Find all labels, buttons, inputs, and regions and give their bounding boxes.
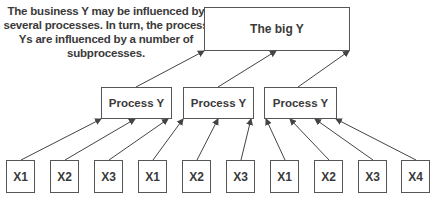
input-box-x2-b: X2 [182,160,211,193]
input-label: X3 [365,170,380,184]
input-box-x3-c: X3 [358,160,387,193]
caption-line-1: The business Y may be influenced by [0,4,212,18]
process-label: Process Y [191,97,246,109]
caption-line-4: subprocesses. [0,46,212,60]
input-box-x2-c: X2 [314,160,343,193]
process-y-box-1: Process Y [101,87,172,119]
process-y-box-2: Process Y [183,87,254,119]
input-box-x2-a: X2 [50,160,79,193]
arrow-x2-to-process2 [197,119,218,160]
process-label: Process Y [273,97,328,109]
arrow-x1-to-process1 [21,119,101,160]
input-label: X3 [233,170,248,184]
arrow-process3-to-bigy [298,51,349,87]
input-box-x1-a: X1 [6,160,35,193]
input-label: X2 [57,170,72,184]
input-box-x3-b: X3 [226,160,255,193]
arrow-x3-to-process2 [241,119,251,160]
big-y-label: The big Y [250,22,304,36]
process-label: Process Y [109,97,164,109]
arrow-process2-to-bigy [218,51,276,87]
arrow-x1-to-process3 [266,119,285,160]
arrow-x2-to-process3 [290,119,329,160]
arrow-x4-to-process3 [336,119,416,160]
input-label: X1 [13,170,28,184]
input-label: X2 [189,170,204,184]
input-label: X4 [408,170,423,184]
arrow-x2-to-process1 [65,119,135,160]
input-label: X1 [277,170,292,184]
input-label: X1 [145,170,160,184]
input-box-x4-c: X4 [401,160,430,193]
diagram-caption: The business Y may be influenced by seve… [0,4,212,60]
input-box-x3-a: X3 [94,160,123,193]
process-y-box-3: Process Y [264,87,337,119]
caption-line-3: Ys are influenced by a number of [0,32,212,46]
arrow-x1-to-process2 [153,119,183,160]
input-label: X2 [321,170,336,184]
caption-line-2: several processes. In turn, the process [0,18,212,32]
input-label: X3 [101,170,116,184]
big-y-box: The big Y [204,7,350,51]
arrow-x3-to-process3 [315,119,373,160]
input-box-x1-b: X1 [138,160,167,193]
input-box-x1-c: X1 [270,160,299,193]
arrow-x3-to-process1 [109,119,168,160]
